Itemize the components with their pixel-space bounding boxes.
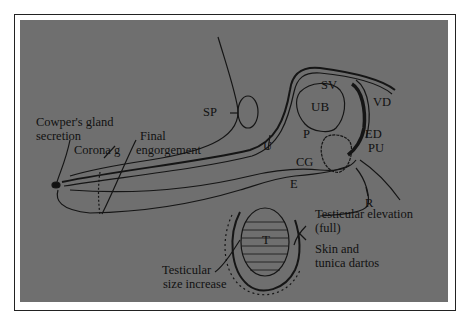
label-vd: VD <box>373 96 391 109</box>
scrotum <box>232 212 299 290</box>
corona <box>99 172 101 215</box>
label-engorgement: engorgement <box>136 144 201 157</box>
leader-cowper <box>57 140 70 182</box>
label-corona-g: Corona g <box>74 144 120 157</box>
prostate <box>321 135 351 172</box>
label-testicular-elevation: Testicular elevation <box>315 208 413 221</box>
anatomy-drawing <box>0 0 471 326</box>
label-sp: SP <box>203 106 217 119</box>
label-p: P <box>303 128 310 141</box>
label-tunica-dartos: tunica dartos <box>315 257 379 270</box>
label-u: U <box>263 140 272 153</box>
label-final: Final <box>140 130 166 143</box>
label-sv: SV <box>321 79 337 92</box>
label-cowpers-gland: Cowper's gland <box>36 116 114 129</box>
label-ed: ED <box>365 128 382 141</box>
penis-lower-outline <box>57 165 350 213</box>
label-pu: PU <box>368 142 384 155</box>
sp-structure <box>238 96 258 128</box>
label-size-increase: size increase <box>163 278 227 291</box>
label-secretion: secretion <box>36 130 81 143</box>
label-ub: UB <box>311 100 329 113</box>
label-testicular: Testicular <box>162 264 211 277</box>
label-skin-and: Skin and <box>315 243 359 256</box>
label-e: E <box>290 178 298 191</box>
cowpers-secretion-drop <box>52 182 60 188</box>
label-cg: CG <box>296 156 313 169</box>
scrotum-dotted <box>225 215 300 295</box>
label-full: (full) <box>315 222 341 235</box>
label-t: T <box>262 233 270 246</box>
